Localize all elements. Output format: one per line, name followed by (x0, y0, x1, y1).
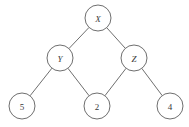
node-label-n5: 5 (20, 102, 25, 112)
node-layer: XYZ524 (9, 5, 183, 119)
graph-node-n2[interactable]: 2 (84, 93, 110, 119)
graph-node-y[interactable]: Y (47, 45, 73, 71)
graph-node-n5[interactable]: 5 (9, 93, 35, 119)
graph-edge-z-4 (142, 68, 162, 95)
graph-edge-y-2 (68, 68, 89, 95)
graph-node-z[interactable]: Z (121, 45, 147, 71)
node-label-n4: 4 (168, 102, 173, 112)
graph-edge-x-z (107, 28, 126, 49)
diagram-canvas: XYZ524 (0, 0, 189, 127)
graph-node-x[interactable]: X (85, 5, 111, 31)
node-label-n2: 2 (95, 102, 100, 112)
graph-edge-z-2 (105, 68, 126, 95)
graph-edge-y-5 (30, 68, 52, 96)
graph-node-n4[interactable]: 4 (157, 93, 183, 119)
graph-edge-x-y (69, 27, 89, 48)
node-label-x: X (94, 14, 101, 24)
graph-svg: XYZ524 (0, 0, 189, 127)
